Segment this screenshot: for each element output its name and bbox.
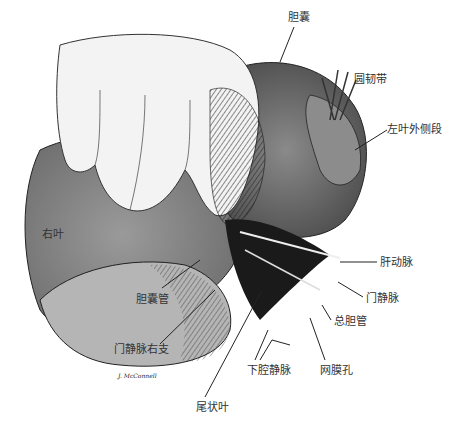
label-cystic-duct: 胆囊管 xyxy=(136,294,169,306)
label-gallbladder: 胆囊 xyxy=(288,12,310,24)
artist-signature: J. McConnell xyxy=(118,372,157,379)
label-left-lateral-segment: 左叶外侧段 xyxy=(387,124,442,136)
label-right-lobe: 右叶 xyxy=(42,229,64,241)
label-portal-vein-right-branch: 门静脉右支 xyxy=(114,344,169,356)
label-round-ligament: 圆韧带 xyxy=(354,74,387,86)
label-omental-foramen: 网膜孔 xyxy=(320,365,353,377)
label-caudate-lobe: 尾状叶 xyxy=(196,402,229,414)
liver-illustration xyxy=(0,0,450,426)
label-portal-vein: 门静脉 xyxy=(366,293,399,305)
anatomy-figure: 胆囊 圆韧带 左叶外侧段 右叶 肝动脉 门静脉 总胆管 胆囊管 门静脉右支 下腔… xyxy=(0,0,450,426)
label-hepatic-artery: 肝动脉 xyxy=(380,257,413,269)
label-common-bile-duct: 总胆管 xyxy=(334,316,367,328)
label-inferior-vena-cava: 下腔静脉 xyxy=(247,365,291,377)
